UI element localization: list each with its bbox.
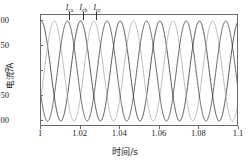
annotation-i_ca: Ica [66,3,73,12]
y-tick-mark [40,45,43,46]
x-tick-mark [119,126,120,129]
figure: 100500-50-100 11.021.041.061.081.1 电流/A … [0,0,250,167]
plot-area [40,14,238,126]
x-tick-mark [40,126,41,129]
y-axis-label: 电流/A [3,46,15,106]
x-tick-mark [80,126,81,129]
x-tick-label: 1.02 [72,128,87,138]
annotation-leader-line [83,12,84,20]
x-tick-label: 1.06 [151,128,166,138]
x-tick-mark [159,126,160,129]
y-tick-label: 100 [0,15,9,25]
waveform-curves [41,15,238,126]
x-axis-label: 时间/s [0,145,250,158]
x-tick-label: 1.1 [233,128,244,138]
annotation-i_cb: Icb [80,3,88,12]
annotation-i_cc: Icc [93,3,100,12]
x-tick-label: 1.08 [191,128,206,138]
series-line-i_ca [41,21,238,121]
x-tick-label: 1.04 [112,128,127,138]
annotation-leader-line [69,12,70,20]
y-tick-mark [40,120,43,121]
x-tick-label: 1 [38,128,42,138]
x-tick-mark [238,126,239,129]
y-tick-label: -100 [0,115,9,125]
y-tick-mark [40,70,43,71]
annotation-leader-line [96,12,97,20]
y-tick-mark [40,95,43,96]
y-tick-mark [40,20,43,21]
x-tick-mark [198,126,199,129]
